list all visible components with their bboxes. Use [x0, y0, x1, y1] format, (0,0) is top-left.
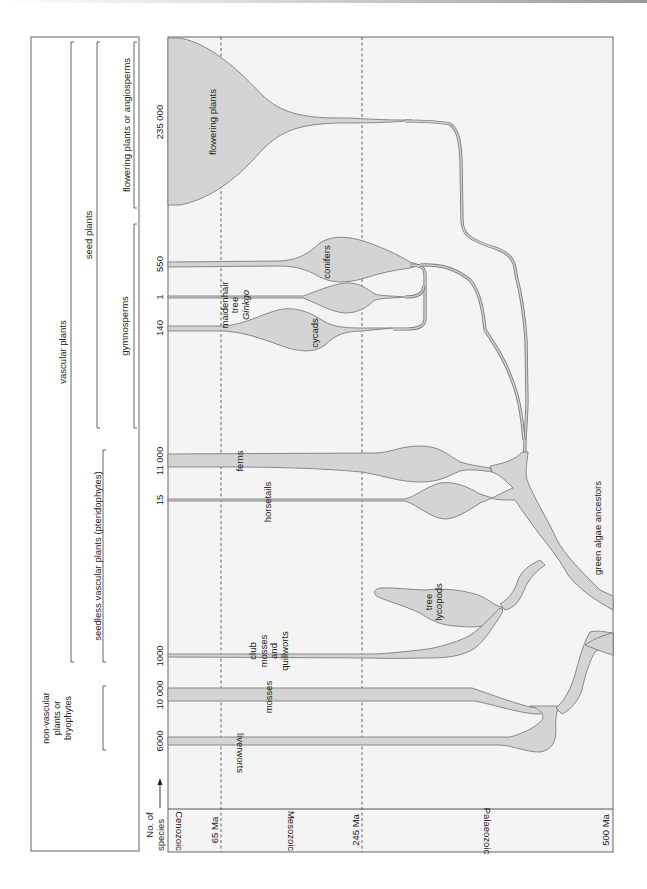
- label-ginkgo-line2: tree: [229, 297, 240, 313]
- label-liverworts: liverworts: [235, 733, 246, 773]
- label-club-mosses-line3: and: [268, 643, 279, 659]
- label-ferns: ferns: [234, 450, 245, 471]
- label-club-mosses-line1: club: [247, 642, 258, 659]
- label-mosses: mosses: [263, 680, 274, 713]
- count-cycads: 140: [154, 320, 165, 336]
- label-angiosperms: flowering plants or angiosperms: [121, 58, 132, 192]
- count-horsetails: 15: [154, 495, 165, 506]
- label-vascular-plants: vascular plants: [57, 320, 68, 384]
- label-conifers: conifers: [321, 245, 332, 279]
- label-flowering-plants: flowering plants: [207, 89, 218, 155]
- label-club-mosses-line4: quillworts: [279, 631, 290, 671]
- label-tree-lycopods-line2: lycopods: [433, 583, 444, 621]
- era-palaeozoic: Palaeozoic: [482, 808, 493, 855]
- species-header-line1: No. of: [144, 812, 155, 838]
- count-mosses: 10 000: [154, 680, 165, 709]
- plant-evolution-diagram: vascular plants seed plants flowering pl…: [0, 0, 647, 889]
- species-header-line2: species: [155, 819, 166, 851]
- era-cenozoic: Cenozoic: [174, 811, 185, 851]
- label-cycads: cycads: [309, 318, 320, 348]
- count-ferns: 11 000: [154, 447, 165, 475]
- count-liverworts: 6000: [154, 730, 165, 751]
- era-mesozoic: Mesozoic: [286, 811, 297, 851]
- count-flowering: 235 000: [154, 105, 165, 139]
- label-horsetails: horsetails: [262, 481, 273, 522]
- label-pteridophytes: seedless vascular plants (pteridophytes): [92, 471, 103, 641]
- boundary-245ma-label: 245 Ma: [350, 813, 361, 845]
- count-ginkgo: 1: [154, 294, 165, 299]
- label-ginkgo-line3: Ginkgo: [240, 290, 251, 320]
- label-seed-plants: seed plants: [83, 210, 94, 259]
- label-gymnosperms: gymnosperms: [119, 296, 130, 356]
- boundary-500ma-label: 500 Ma: [600, 813, 611, 845]
- label-bryophytes-line2: plants or: [52, 701, 62, 736]
- label-bryophytes-line3: bryophytes: [63, 695, 73, 740]
- boundary-65ma-label: 65 Ma: [209, 816, 220, 843]
- label-bryophytes-line1: non-vascular: [41, 692, 51, 744]
- species-arrow-icon: [158, 778, 163, 808]
- count-conifers: 550: [154, 256, 165, 272]
- count-club-mosses: 1000: [154, 645, 165, 666]
- label-green-algae-ancestors: green algae ancestors: [592, 481, 603, 575]
